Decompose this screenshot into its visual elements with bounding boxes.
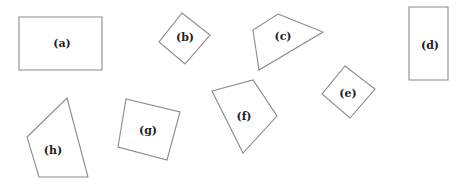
shape-label: (f)	[236, 110, 251, 123]
shape-label: (g)	[139, 124, 157, 137]
shape-label: (d)	[421, 39, 439, 52]
shape-h: (h)	[27, 98, 88, 177]
shape-label: (c)	[274, 30, 291, 43]
shape-g: (g)	[118, 99, 180, 160]
shape-c: (c)	[253, 14, 323, 70]
shape-d: (d)	[409, 7, 448, 80]
shape-label: (a)	[53, 37, 71, 50]
shapes-diagram: (a) (b) (c) (d) (e) (f) (g) (h)	[0, 0, 465, 187]
shape-e: (e)	[322, 66, 375, 118]
shape-b: (b)	[159, 13, 210, 64]
quadrilateral-shape	[27, 98, 88, 177]
shape-a: (a)	[19, 17, 102, 70]
shape-label: (b)	[176, 31, 194, 44]
shape-label: (e)	[339, 87, 356, 100]
shape-f: (f)	[212, 80, 277, 153]
shape-label: (h)	[44, 144, 62, 157]
